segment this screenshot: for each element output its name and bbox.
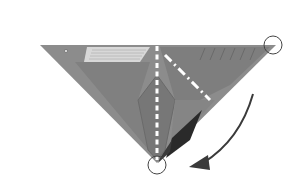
eye-dot (64, 49, 67, 52)
label-panel (84, 47, 150, 62)
